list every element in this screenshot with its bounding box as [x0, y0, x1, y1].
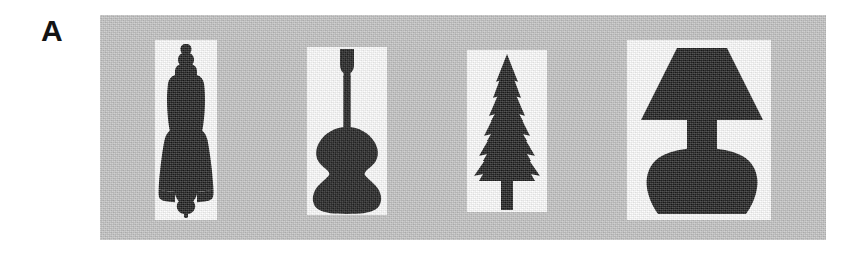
stimulus-card-tree [467, 50, 547, 212]
pine-tree-silhouette [467, 50, 547, 212]
panel-label: A [41, 14, 63, 48]
violin-silhouette [307, 47, 387, 215]
table-lamp-silhouette [627, 40, 771, 220]
stimulus-card-figurine [155, 40, 217, 220]
stimulus-card-violin [307, 47, 387, 215]
figure-panel-a: A [0, 0, 863, 253]
figurine-silhouette [155, 40, 217, 220]
stimulus-strip-background [100, 15, 826, 240]
stimulus-card-lamp [627, 40, 771, 220]
